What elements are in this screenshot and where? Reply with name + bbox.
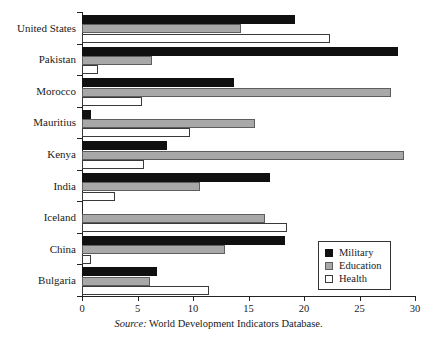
bar-military: [82, 267, 157, 276]
bar-military: [82, 110, 91, 119]
bar-education: [82, 214, 265, 223]
y-axis-tick: [77, 201, 82, 202]
x-axis-tick-label: 5: [135, 303, 140, 314]
bar-group: Pakistan: [82, 44, 415, 76]
bar-group: India: [82, 170, 415, 202]
x-axis-tick: [415, 296, 416, 301]
y-axis-tick: [77, 233, 82, 234]
y-axis-tick: [77, 44, 82, 45]
bar-health: [82, 192, 115, 201]
legend-swatch-military-icon: [325, 249, 333, 257]
source-label: Source:: [114, 318, 146, 329]
y-axis-category-label: United States: [17, 22, 76, 34]
legend-item-education: Education: [325, 259, 382, 272]
y-axis-tick: [77, 75, 82, 76]
bar-military: [82, 141, 167, 150]
x-axis-tick-label: 20: [299, 303, 310, 314]
y-axis-tick: [77, 170, 82, 171]
bar-education: [82, 151, 404, 160]
bar-military: [82, 78, 234, 87]
x-axis-tick-label: 15: [243, 303, 254, 314]
legend-label-education: Education: [339, 260, 382, 271]
y-axis-tick: [77, 264, 82, 265]
y-axis-category-label: Mauritius: [33, 116, 76, 128]
bar-health: [82, 128, 190, 137]
y-axis-category-label: China: [50, 243, 76, 255]
bar-health: [82, 65, 98, 74]
y-axis-tick: [77, 296, 82, 297]
bar-health: [82, 97, 142, 106]
x-axis-tick: [138, 296, 139, 301]
y-axis-tick: [77, 107, 82, 108]
bar-military: [82, 15, 295, 24]
bar-military: [82, 236, 285, 245]
x-axis-tick: [304, 296, 305, 301]
bar-education: [82, 119, 255, 128]
x-axis-tick: [82, 296, 83, 301]
y-axis-category-label: Bulgaria: [38, 274, 76, 286]
y-axis-tick: [77, 138, 82, 139]
x-axis-tick: [360, 296, 361, 301]
bar-health: [82, 160, 144, 169]
bar-education: [82, 88, 391, 97]
legend-item-military: Military: [325, 246, 382, 259]
x-axis-tick-label: 0: [79, 303, 84, 314]
legend-label-health: Health: [339, 273, 367, 284]
bar-health: [82, 34, 330, 43]
bar-education: [82, 182, 200, 191]
source-text: World Development Indicators Database.: [147, 318, 323, 329]
bar-health: [82, 223, 287, 232]
bar-group: United States: [82, 12, 415, 44]
source-caption: Source: World Development Indicators Dat…: [0, 318, 437, 329]
bar-military: [82, 173, 270, 182]
y-axis-category-label: India: [53, 180, 76, 192]
bar-group: Mauritius: [82, 107, 415, 139]
y-axis-category-label: Pakistan: [39, 53, 76, 65]
bar-education: [82, 24, 241, 33]
bar-military: [82, 47, 398, 56]
bar-group: Morocco: [82, 75, 415, 107]
y-axis-category-label: Iceland: [44, 211, 76, 223]
bar-education: [82, 277, 150, 286]
x-axis-tick-label: 30: [410, 303, 421, 314]
x-axis-tick: [193, 296, 194, 301]
y-axis-category-label: Morocco: [36, 85, 76, 97]
y-axis-tick: [77, 12, 82, 13]
legend: Military Education Health: [318, 241, 391, 290]
bar-health: [82, 255, 91, 264]
bar-health: [82, 286, 209, 295]
x-axis-tick-label: 10: [188, 303, 199, 314]
legend-label-military: Military: [339, 247, 373, 258]
legend-swatch-education-icon: [325, 262, 333, 270]
legend-swatch-health-icon: [325, 275, 333, 283]
y-axis-category-label: Kenya: [47, 148, 76, 160]
bar-education: [82, 245, 225, 254]
bar-education: [82, 56, 152, 65]
chart-figure: 051015202530 United StatesPakistanMorocc…: [0, 0, 437, 340]
legend-item-health: Health: [325, 272, 382, 285]
bar-group: Iceland: [82, 201, 415, 233]
x-axis-tick: [249, 296, 250, 301]
bar-group: Kenya: [82, 138, 415, 170]
x-axis-tick-label: 25: [354, 303, 365, 314]
